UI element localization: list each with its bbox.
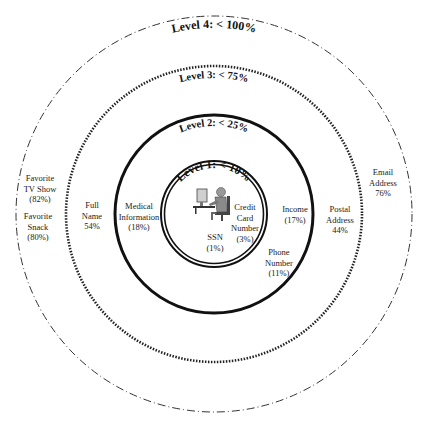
item-credit-card-value: (3%)	[231, 234, 259, 245]
item-snack-line2: Snack	[24, 222, 52, 233]
item-phone-value: (11%)	[265, 268, 293, 279]
item-tv-line2: TV Show	[24, 184, 57, 195]
item-income-label: Income	[282, 204, 308, 215]
item-snack-value: (80%)	[24, 232, 52, 243]
item-email-line1: Email	[369, 167, 397, 178]
item-phone-line2: Number	[265, 258, 293, 269]
item-email-address: Email Address 76%	[369, 167, 397, 199]
level-1-title: Level 1: < 10%	[174, 158, 254, 184]
item-phone-line1: Phone	[265, 247, 293, 258]
item-credit-card-line2: Card	[231, 213, 259, 224]
item-income-value: (17%)	[282, 215, 308, 226]
item-phone-number: Phone Number (11%)	[265, 247, 293, 279]
item-full-name: Full Name 54%	[82, 200, 102, 232]
person-at-computer-icon	[193, 188, 230, 222]
level-4-title: Level 4: < 100%	[170, 17, 257, 36]
item-full-name-value: 54%	[82, 221, 102, 232]
item-income: Income (17%)	[282, 204, 308, 225]
item-medical-value: (18%)	[119, 222, 160, 233]
item-email-value: 76%	[369, 188, 397, 199]
item-full-name-line2: Name	[82, 211, 102, 222]
item-credit-card: Credit Card Number (3%)	[231, 202, 259, 244]
item-email-line2: Address	[369, 178, 397, 189]
item-medical-line1: Medical	[119, 201, 160, 212]
concentric-levels-diagram: Level 1: < 10% Level 2: < 25% Level 3: <…	[0, 0, 430, 430]
item-postal-value: 44%	[326, 225, 354, 236]
item-tv-line1: Favorite	[24, 173, 57, 184]
item-ssn-value: (1%)	[207, 243, 224, 254]
item-medical-line2: Information	[119, 212, 160, 223]
item-ssn: SSN (1%)	[207, 232, 224, 253]
item-favorite-tv-show: Favorite TV Show (82%)	[24, 173, 57, 205]
item-postal-address: Postal Address 44%	[326, 204, 354, 236]
item-full-name-line1: Full	[82, 200, 102, 211]
item-credit-card-line3: Number	[231, 223, 259, 234]
item-credit-card-line1: Credit	[231, 202, 259, 213]
item-tv-value: (82%)	[24, 194, 57, 205]
item-medical-information: Medical Information (18%)	[119, 201, 160, 233]
item-postal-line1: Postal	[326, 204, 354, 215]
level-3-title: Level 3: < 75%	[178, 69, 249, 84]
item-ssn-label: SSN	[207, 232, 224, 243]
item-snack-line1: Favorite	[24, 211, 52, 222]
item-postal-line2: Address	[326, 215, 354, 226]
item-favorite-snack: Favorite Snack (80%)	[24, 211, 52, 243]
